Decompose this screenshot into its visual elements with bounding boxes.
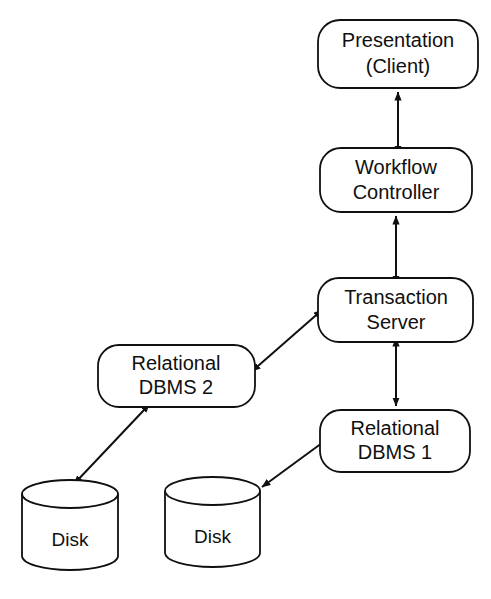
node-disk-left[interactable]: Disk	[22, 480, 118, 570]
node-disk-left-label: Disk	[52, 529, 89, 550]
connector-transaction-dbms2	[258, 310, 322, 366]
node-workflow-controller-line1: Workflow	[355, 156, 437, 178]
node-relational-dbms-2[interactable]: Relational DBMS 2	[98, 345, 255, 407]
node-workflow-controller[interactable]: Workflow Controller	[320, 148, 472, 212]
node-transaction-server-line1: Transaction	[344, 286, 448, 308]
node-disk-right[interactable]: Disk	[165, 477, 260, 567]
node-transaction-server-line2: Server	[367, 311, 426, 333]
connector-dbms1-disk-right	[262, 443, 322, 487]
node-disk-left-top	[22, 480, 118, 508]
node-relational-dbms-2-line1: Relational	[132, 352, 221, 374]
node-relational-dbms-1[interactable]: Relational DBMS 1	[320, 410, 470, 472]
node-disk-right-top	[165, 477, 260, 505]
connector-dbms2-disk-left	[74, 410, 144, 484]
node-relational-dbms-2-line2: DBMS 2	[139, 376, 213, 398]
node-relational-dbms-1-line2: DBMS 1	[358, 441, 432, 463]
node-presentation-line2: (Client)	[366, 55, 430, 77]
node-transaction-server[interactable]: Transaction Server	[318, 278, 473, 342]
node-workflow-controller-line2: Controller	[353, 181, 440, 203]
node-disk-right-label: Disk	[194, 526, 231, 547]
node-presentation-line1: Presentation	[342, 29, 454, 51]
architecture-diagram: Presentation (Client) Workflow Controlle…	[0, 0, 491, 599]
diagram-svg-canvas: Presentation (Client) Workflow Controlle…	[0, 0, 491, 599]
node-presentation[interactable]: Presentation (Client)	[318, 20, 478, 88]
node-relational-dbms-1-line1: Relational	[351, 417, 440, 439]
